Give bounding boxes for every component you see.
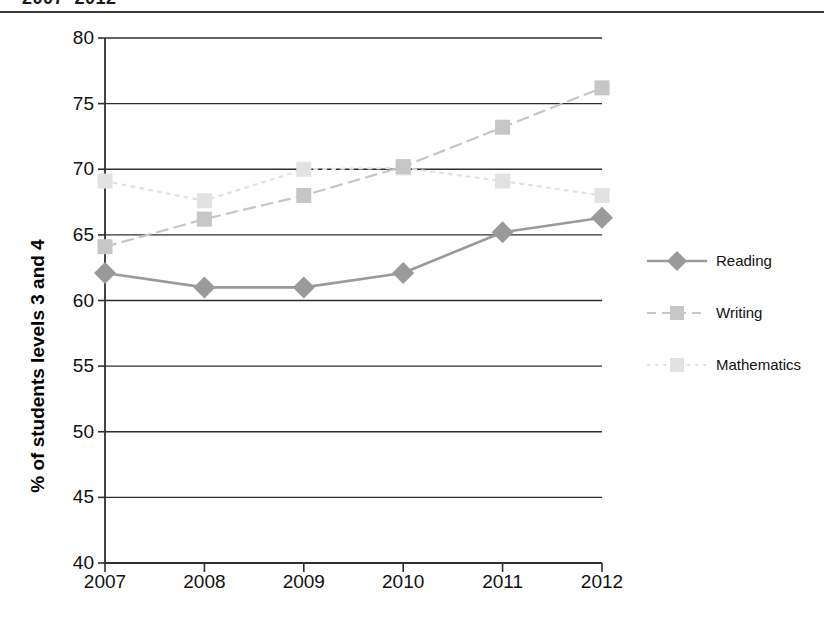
- data-point-writing-2011[interactable]: [495, 120, 510, 135]
- chart-legend: ReadingWritingMathematics: [646, 248, 824, 378]
- legend-key-mathematics-icon: [646, 352, 708, 378]
- page-title: 2007–2012: [22, 0, 117, 9]
- x-axis-tick-labels: 200720082009201020112012: [105, 572, 602, 600]
- data-point-writing-2008[interactable]: [197, 212, 212, 227]
- data-point-writing-2007[interactable]: [98, 239, 113, 254]
- y-axis-tick-labels: 807570656055504540: [48, 38, 94, 563]
- chart-page: 2007–2012 % of students levels 3 and 4 8…: [0, 0, 824, 628]
- x-axis-label-2008: 2008: [159, 572, 249, 591]
- x-axis-label-2009: 2009: [259, 572, 349, 591]
- data-point-mathematics-2011[interactable]: [495, 174, 510, 189]
- header-divider: [0, 11, 824, 13]
- series-line-mathematics: [105, 168, 602, 201]
- plot-area: [105, 38, 602, 563]
- y-axis-title: % of students levels 3 and 4: [27, 166, 49, 566]
- data-point-writing-2010[interactable]: [396, 159, 411, 174]
- page-title-clip: 2007–2012: [0, 0, 824, 11]
- y-axis-label-70: 70: [48, 159, 94, 178]
- data-point-mathematics-2012[interactable]: [595, 188, 610, 203]
- y-axis-label-75: 75: [48, 94, 94, 113]
- legend-label-reading: Reading: [716, 252, 772, 269]
- x-axis-label-2011: 2011: [458, 572, 548, 591]
- data-point-writing-2012[interactable]: [595, 80, 610, 95]
- y-axis-label-50: 50: [48, 422, 94, 441]
- x-axis-label-2007: 2007: [60, 572, 150, 591]
- data-point-mathematics-2008[interactable]: [197, 193, 212, 208]
- data-point-mathematics-2007[interactable]: [98, 174, 113, 189]
- legend-item-mathematics[interactable]: Mathematics: [646, 352, 824, 378]
- data-point-mathematics-2009[interactable]: [296, 162, 311, 177]
- legend-label-mathematics: Mathematics: [716, 356, 801, 373]
- legend-key-writing-icon: [646, 300, 708, 326]
- data-point-reading-2012[interactable]: [591, 207, 613, 229]
- legend-label-writing: Writing: [716, 304, 762, 321]
- series-reading: [94, 207, 613, 299]
- y-axis-label-60: 60: [48, 291, 94, 310]
- series-line-reading: [105, 218, 602, 288]
- data-point-reading-2008[interactable]: [193, 276, 215, 298]
- series-line-writing: [105, 88, 602, 247]
- y-axis-label-80: 80: [48, 28, 94, 47]
- x-axis-label-2010: 2010: [358, 572, 448, 591]
- y-axis-label-45: 45: [48, 487, 94, 506]
- y-axis-label-55: 55: [48, 356, 94, 375]
- y-axis-label-40: 40: [48, 553, 94, 572]
- legend-item-writing[interactable]: Writing: [646, 300, 824, 326]
- data-point-writing-2009[interactable]: [296, 188, 311, 203]
- data-point-reading-2007[interactable]: [94, 262, 116, 284]
- data-point-reading-2010[interactable]: [392, 262, 414, 284]
- x-axis-label-2012: 2012: [557, 572, 647, 591]
- series-mathematics: [98, 160, 610, 208]
- y-axis-label-65: 65: [48, 225, 94, 244]
- legend-item-reading[interactable]: Reading: [646, 248, 824, 274]
- legend-key-reading-icon: [646, 248, 708, 274]
- data-point-reading-2009[interactable]: [293, 276, 315, 298]
- line-chart-svg: [105, 38, 602, 563]
- data-point-reading-2011[interactable]: [492, 221, 514, 243]
